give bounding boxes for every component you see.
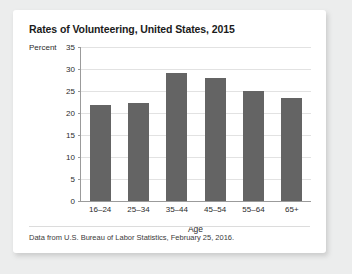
bar-group: 45–54 [196, 47, 234, 201]
x-tick-label: 25–34 [127, 205, 149, 214]
chart-plot-region: Percent 05101520253035 16–2425–3435–4445… [29, 43, 314, 218]
x-tick-label: 55–64 [242, 205, 264, 214]
bar [166, 73, 187, 201]
bar [243, 91, 264, 201]
bar [281, 98, 302, 201]
y-tick-label: 25 [66, 87, 75, 96]
bar-group: 16–24 [81, 47, 119, 201]
chart-title: Rates of Volunteering, United States, 20… [29, 23, 235, 35]
y-tick-label: 0 [71, 197, 75, 206]
bar-group: 35–44 [158, 47, 196, 201]
x-tick-label: 65+ [285, 205, 299, 214]
bar [90, 105, 111, 201]
bar-series: 16–2425–3435–4445–5455–6465+ [81, 47, 311, 201]
bar-group: 65+ [273, 47, 311, 201]
x-tick-label: 35–44 [166, 205, 188, 214]
figure-card: Rates of Volunteering, United States, 20… [13, 10, 326, 253]
y-tick-label: 20 [66, 109, 75, 118]
y-tick-mark [78, 201, 81, 202]
y-tick-label: 10 [66, 153, 75, 162]
x-tick-label: 16–24 [89, 205, 111, 214]
bar-group: 25–34 [119, 47, 157, 201]
source-note: Data from U.S. Bureau of Labor Statistic… [29, 233, 234, 242]
bar-group: 55–64 [234, 47, 272, 201]
y-tick-label: 5 [71, 175, 75, 184]
source-divider [29, 226, 310, 227]
x-tick-label: 45–54 [204, 205, 226, 214]
y-tick-label: 30 [66, 65, 75, 74]
y-tick-label: 35 [66, 43, 75, 52]
y-tick-label: 15 [66, 131, 75, 140]
y-axis-title: Percent [29, 43, 57, 52]
bar [205, 78, 226, 201]
bar [128, 103, 149, 201]
plot-area: 05101520253035 16–2425–3435–4445–5455–64… [80, 47, 311, 202]
